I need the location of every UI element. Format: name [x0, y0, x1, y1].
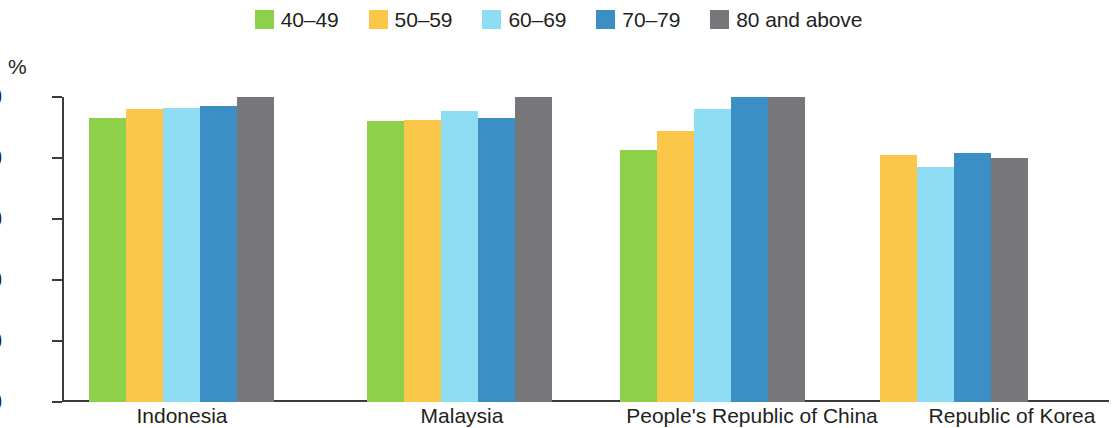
bar[interactable]: [404, 120, 441, 402]
bar[interactable]: [367, 121, 404, 402]
legend-item-label: 80 and above: [736, 9, 862, 30]
y-axis-tick-label: 60: [0, 207, 2, 231]
x-axis-group-label: Malaysia: [421, 405, 504, 427]
bar-group-bars: [880, 97, 1028, 402]
bar[interactable]: [694, 109, 731, 402]
y-axis-tick-mark: [52, 218, 62, 220]
legend-swatch-square: [482, 10, 501, 29]
bar-group-bars: [620, 97, 805, 402]
bar[interactable]: [657, 131, 694, 402]
x-axis-group-label: People's Republic of China: [626, 405, 878, 427]
y-axis-tick-mark: [52, 96, 62, 98]
bar[interactable]: [954, 153, 991, 402]
bar[interactable]: [880, 155, 917, 402]
legend-item-label: 40–49: [281, 9, 339, 30]
y-axis-tick-mark: [52, 157, 62, 159]
legend-swatch-square: [596, 10, 615, 29]
bar[interactable]: [237, 97, 274, 402]
y-axis-tick-label: 80: [0, 146, 2, 170]
bar-group: Indonesia: [89, 97, 274, 402]
bar[interactable]: [991, 158, 1028, 402]
legend-item-label: 50–59: [395, 9, 453, 30]
bar[interactable]: [515, 97, 552, 402]
y-axis-tick-label: 20: [0, 329, 2, 353]
legend-item-label: 70–79: [622, 9, 680, 30]
bar-group: Republic of Korea: [880, 97, 1028, 402]
bar[interactable]: [478, 118, 515, 402]
y-axis-tick-label: 0: [0, 390, 2, 414]
legend-swatch-square: [255, 10, 274, 29]
bar[interactable]: [200, 106, 237, 402]
bar[interactable]: [731, 97, 768, 402]
legend-swatch-square: [710, 10, 729, 29]
bar[interactable]: [441, 111, 478, 402]
legend-item: 70–79: [596, 9, 680, 30]
bar[interactable]: [620, 150, 657, 402]
bar-group: Malaysia: [367, 97, 552, 402]
bar-group-bars: [367, 97, 552, 402]
legend-item: 60–69: [482, 9, 566, 30]
y-axis-tick-mark: [52, 340, 62, 342]
plot-area: 100806040200 IndonesiaMalaysiaPeople's R…: [62, 97, 1109, 402]
chart-legend: 40–4950–5960–6970–7980 and above: [0, 6, 1117, 32]
bar[interactable]: [89, 118, 126, 402]
bar-groups: IndonesiaMalaysiaPeople's Republic of Ch…: [62, 97, 1109, 402]
bar[interactable]: [126, 109, 163, 402]
bar[interactable]: [163, 108, 200, 402]
y-axis-tick-mark: [52, 279, 62, 281]
y-axis-tick-mark: [52, 401, 62, 403]
legend-item: 80 and above: [710, 9, 862, 30]
legend-item: 50–59: [369, 9, 453, 30]
y-axis-tick-label: 100: [0, 85, 2, 109]
bar-group: People's Republic of China: [620, 97, 805, 402]
legend-swatch-square: [369, 10, 388, 29]
bar-chart: 40–4950–5960–6970–7980 and above % 10080…: [0, 0, 1117, 428]
y-axis-unit-label: %: [8, 56, 27, 77]
legend-item-label: 60–69: [508, 9, 566, 30]
bar[interactable]: [768, 97, 805, 402]
y-axis-tick-label: 40: [0, 268, 2, 292]
bar-group-bars: [89, 97, 274, 402]
bar[interactable]: [917, 167, 954, 402]
x-axis-group-label: Indonesia: [136, 405, 227, 427]
legend-item: 40–49: [255, 9, 339, 30]
x-axis-group-label: Republic of Korea: [929, 405, 1096, 427]
